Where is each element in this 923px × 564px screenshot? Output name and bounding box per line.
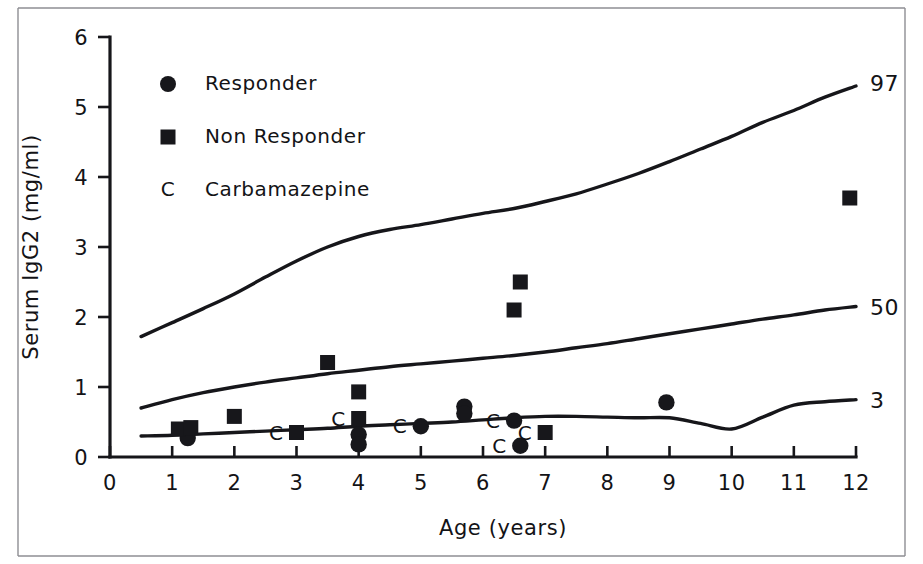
legend-square-icon (161, 130, 176, 145)
chart-legend: ResponderNon ResponderCCarbamazepine (160, 71, 370, 201)
data-point-non-responder (183, 420, 198, 435)
legend-label-text: Non Responder (205, 124, 366, 148)
x-tick-labels: 0123456789101112 (103, 471, 870, 495)
data-point-non-responder (227, 409, 242, 424)
y-tick-label: 6 (74, 26, 88, 50)
x-tick-label: 11 (780, 471, 808, 495)
non-responder-square-marker (351, 411, 366, 426)
responder-circle-marker (658, 394, 674, 410)
x-tick-label: 2 (227, 471, 241, 495)
responder-circle-marker (456, 405, 472, 421)
x-tick-label: 10 (718, 471, 746, 495)
non-responder-square-marker (320, 355, 335, 370)
responder-circle-marker (413, 418, 429, 434)
legend-letter-c-icon: C (161, 177, 176, 201)
y-tick-label: 0 (74, 446, 88, 470)
carbamazepine-annotation: C (269, 421, 283, 445)
x-tick-label: 9 (663, 471, 677, 495)
x-axis-title: Age (years) (439, 516, 567, 540)
data-point-non-responder (513, 275, 528, 290)
y-tick-label: 4 (74, 166, 88, 190)
non-responder-square-marker (183, 420, 198, 435)
carbamazepine-annotation: C (393, 414, 407, 438)
axes (110, 37, 856, 457)
y-tick-label: 2 (74, 306, 88, 330)
x-tick-label: 3 (290, 471, 304, 495)
y-tick-labels: 0123456 (74, 26, 88, 470)
data-point-non-responder (507, 303, 522, 318)
data-point-non-responder: C (269, 421, 304, 445)
legend-item-responder: Responder (160, 71, 317, 95)
figure-frame (18, 8, 905, 556)
x-tick-label: 8 (600, 471, 614, 495)
non-responder-square-marker (507, 303, 522, 318)
carbamazepine-annotation: C (486, 409, 500, 433)
data-point-non-responder (351, 384, 366, 399)
data-point-responder (350, 436, 366, 452)
percentile-curve-50 (141, 307, 856, 409)
x-tick-label: 0 (103, 471, 117, 495)
axis-ticks (98, 37, 856, 457)
data-point-responder (658, 394, 674, 410)
percentile-curve-labels: 97503 (870, 71, 899, 413)
data-point-responder (456, 405, 472, 421)
y-tick-label: 1 (74, 376, 88, 400)
responder-circle-marker (350, 436, 366, 452)
non-responder-square-marker (351, 384, 366, 399)
data-point-non-responder (320, 355, 335, 370)
non-responder-square-marker (538, 425, 553, 440)
scatter-plot-canvas: 0123456789101112 0123456 97503 CCCCCC Re… (0, 0, 923, 564)
data-point-non-responder (842, 191, 857, 206)
percentile-label-50: 50 (870, 295, 899, 320)
x-tick-label: 6 (476, 471, 490, 495)
x-tick-label: 12 (842, 471, 870, 495)
carbamazepine-annotation: C (331, 407, 345, 431)
y-axis-title: Serum IgG2 (mg/ml) (19, 134, 43, 360)
legend-item-carbamazepine: CCarbamazepine (161, 177, 370, 201)
data-points: CCCCCC (171, 191, 857, 458)
percentile-label-3: 3 (870, 388, 885, 413)
percentile-label-97: 97 (870, 71, 899, 96)
legend-item-non-responder: Non Responder (161, 124, 366, 148)
legend-label-text: Carbamazepine (205, 177, 370, 201)
y-tick-label: 3 (74, 236, 88, 260)
x-tick-label: 5 (414, 471, 428, 495)
data-point-non-responder: C (518, 421, 553, 445)
non-responder-square-marker (513, 275, 528, 290)
legend-label-text: Responder (205, 71, 317, 95)
chart-figure: 0123456789101112 0123456 97503 CCCCCC Re… (0, 0, 923, 564)
non-responder-square-marker (227, 409, 242, 424)
non-responder-square-marker (289, 425, 304, 440)
x-tick-label: 4 (352, 471, 366, 495)
y-tick-label: 5 (74, 96, 88, 120)
non-responder-square-marker (842, 191, 857, 206)
carbamazepine-annotation: C (518, 421, 532, 445)
x-tick-label: 1 (165, 471, 179, 495)
legend-circle-icon (160, 76, 176, 92)
x-tick-label: 7 (538, 471, 552, 495)
data-point-responder: C (393, 414, 429, 438)
carbamazepine-annotation: C (492, 434, 506, 458)
